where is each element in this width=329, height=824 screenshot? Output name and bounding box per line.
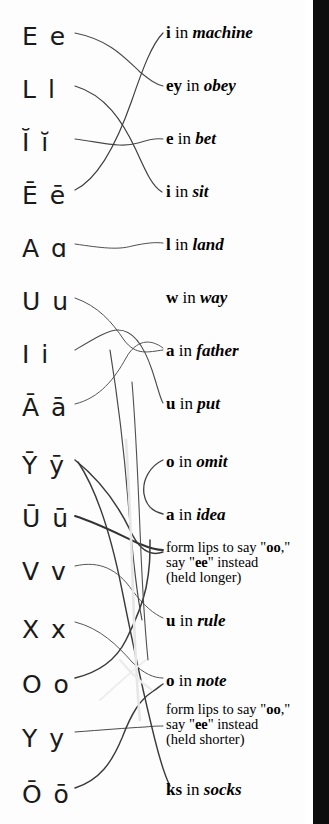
note-line1-prefix: form lips to say " xyxy=(166,539,266,555)
phrase-connector-word: in xyxy=(174,129,196,148)
sym-i-breve[interactable]: Ĭ ĭ xyxy=(22,130,50,155)
phrase-note[interactable]: o in note xyxy=(166,672,312,689)
phrase-connector-word: in xyxy=(171,23,193,42)
phrase-connector-word: in xyxy=(175,671,197,690)
phrase-connector-word: in xyxy=(175,341,197,360)
phrase-key: ey xyxy=(166,76,182,95)
phrase-example-word: omit xyxy=(196,452,227,471)
note-line1-prefix: form lips to say " xyxy=(166,701,266,717)
phrase-example-word: socks xyxy=(204,780,242,799)
phrase-example-word: way xyxy=(200,288,227,307)
phrase-sit[interactable]: i in sit xyxy=(166,183,312,200)
note-line2-suffix: " instead xyxy=(208,554,259,570)
link-u-to-father xyxy=(75,298,163,352)
phrase-connector-word: in xyxy=(175,394,197,413)
sym-a[interactable]: A ɑ xyxy=(22,236,69,261)
phrase-socks[interactable]: ks in socks xyxy=(166,781,312,798)
link-l-to-sit xyxy=(75,86,162,192)
link-o-to-socks xyxy=(75,540,150,678)
phrase-example-word: sit xyxy=(192,182,208,201)
phrase-example-word: land xyxy=(192,235,223,254)
note-oo-shorter[interactable]: form lips to say "oo,"say "ee" instead(h… xyxy=(166,702,316,747)
phrase-example-word: put xyxy=(197,394,220,413)
link-cross-long-3 xyxy=(132,382,148,660)
link-y-to-noteshort xyxy=(75,726,163,732)
note-line-1: form lips to say "oo," xyxy=(166,702,316,717)
link-faint-2 xyxy=(120,660,152,690)
link-cross-long-1 xyxy=(78,462,170,786)
note-line1-suffix: ," xyxy=(281,701,291,717)
phrase-connector-word: in xyxy=(171,182,193,201)
scan-edge-bar xyxy=(313,0,329,824)
phrase-father[interactable]: a in father xyxy=(166,342,312,359)
phrase-omit[interactable]: o in omit xyxy=(166,453,312,470)
sym-x[interactable]: X x xyxy=(22,617,68,642)
link-faint-3 xyxy=(100,660,146,700)
sym-e-macron[interactable]: Ē ē xyxy=(22,183,67,208)
note-line2-prefix: say " xyxy=(166,716,195,732)
phrase-connector-word: in xyxy=(182,780,204,799)
phrase-connector-word: in xyxy=(175,505,197,524)
sym-u-macron[interactable]: Ū ū xyxy=(22,506,70,531)
sym-e[interactable]: E e xyxy=(22,24,67,49)
phrase-example-word: obey xyxy=(204,76,236,95)
link-amacron-to-put xyxy=(75,342,163,404)
link-ibreve-to-bet xyxy=(75,139,163,145)
phrase-bet[interactable]: e in bet xyxy=(166,130,312,147)
sym-i[interactable]: I i xyxy=(22,342,50,367)
sym-v[interactable]: V v xyxy=(22,559,68,584)
phrase-way[interactable]: w in way xyxy=(166,289,312,306)
sym-u[interactable]: U u xyxy=(22,289,70,314)
note-oo-longer[interactable]: form lips to say "oo,"say "ee" instead(h… xyxy=(166,540,316,585)
phrase-put[interactable]: u in put xyxy=(166,395,312,412)
phrase-example-word: bet xyxy=(195,129,216,148)
link-x-to-note xyxy=(75,622,163,678)
link-omit-curve xyxy=(144,460,163,514)
sym-a-macron[interactable]: Ā ā xyxy=(22,395,68,420)
phrase-obey[interactable]: ey in obey xyxy=(166,77,312,94)
link-ymacron-down xyxy=(75,460,163,553)
link-v-to-rule xyxy=(75,564,163,618)
phrase-rule[interactable]: u in rule xyxy=(166,612,312,629)
link-cross-long-2 xyxy=(110,350,142,620)
note-line1-suffix: ," xyxy=(281,539,291,555)
sym-o-macron[interactable]: Ō ō xyxy=(22,782,71,807)
phrase-example-word: note xyxy=(196,671,226,690)
phrase-key: a xyxy=(166,505,175,524)
phrase-example-word: machine xyxy=(192,23,252,42)
phrase-key: ks xyxy=(166,780,182,799)
phrase-land[interactable]: l in land xyxy=(166,236,312,253)
sym-o[interactable]: O o xyxy=(22,672,71,697)
note-line1-sound: oo xyxy=(266,701,281,717)
link-e-to-obey xyxy=(75,33,163,86)
sym-l[interactable]: L l xyxy=(22,77,57,102)
phrase-key: o xyxy=(166,671,175,690)
note-line2-sound: ee xyxy=(195,554,208,570)
link-umacron-note xyxy=(75,516,163,550)
phrase-idea[interactable]: a in idea xyxy=(166,506,312,523)
note-line-2: say "ee" instead xyxy=(166,555,316,570)
link-omacron-up xyxy=(75,684,163,788)
phrase-connector-word: in xyxy=(178,288,200,307)
phrase-machine[interactable]: i in machine xyxy=(166,24,312,41)
phrase-key: e xyxy=(166,129,174,148)
note-line-3: (held shorter) xyxy=(166,732,316,747)
note-line-1: form lips to say "oo," xyxy=(166,540,316,555)
phrase-connector-word: in xyxy=(175,611,197,630)
phrase-connector-word: in xyxy=(171,235,193,254)
sym-y-macron[interactable]: Ȳ ȳ xyxy=(22,453,66,478)
note-line-3: (held longer) xyxy=(166,570,316,585)
link-emacron-to-mach xyxy=(75,33,163,190)
sym-y[interactable]: Y y xyxy=(22,726,66,751)
phrase-connector-word: in xyxy=(182,76,204,95)
phrase-example-word: rule xyxy=(197,611,225,630)
link-i-to-amacron xyxy=(75,330,163,403)
phrase-key: w xyxy=(166,288,178,307)
page-edge-gap xyxy=(306,0,313,824)
note-line2-sound: ee xyxy=(195,716,208,732)
phrase-example-word: father xyxy=(196,341,239,360)
note-line2-prefix: say " xyxy=(166,554,195,570)
note-line1-sound: oo xyxy=(266,539,281,555)
phrase-connector-word: in xyxy=(175,452,197,471)
phrase-key: a xyxy=(166,341,175,360)
